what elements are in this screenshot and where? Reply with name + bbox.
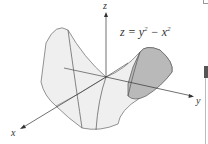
x-axis-arrow xyxy=(20,125,26,130)
page-edge-mark xyxy=(203,0,208,4)
z-axis-label: z xyxy=(103,1,107,11)
equation-label: z = y2 − x2 xyxy=(120,25,171,40)
eq-lhs: z xyxy=(120,25,125,39)
eq-minus: − xyxy=(151,25,159,39)
eq-equals: = xyxy=(128,25,136,39)
saddle-surface-dark xyxy=(128,47,172,99)
eq-term1-exp: 2 xyxy=(144,25,148,33)
x-axis-label: x xyxy=(11,128,15,138)
y-axis-arrow xyxy=(189,94,195,98)
z-axis-arrow xyxy=(104,12,108,17)
page-edge-line xyxy=(205,78,206,144)
y-axis-label: y xyxy=(196,96,200,106)
page-edge-bar xyxy=(204,66,208,78)
eq-term2-exp: 2 xyxy=(167,25,171,33)
saddle-diagram xyxy=(0,0,208,144)
